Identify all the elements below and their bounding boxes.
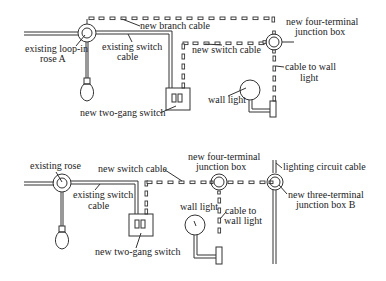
label-new-switch-cable: new switch cable [98,163,167,174]
label-wall-light: wall light [208,94,246,105]
label-wall-light-2: wall light [224,215,262,226]
label-existing-rose: existing rose [30,160,81,171]
label-new-two-gang-switch: new two-gang switch [80,107,166,118]
bottom-pendant-bulb-icon [55,192,68,249]
label-junction-box-b: junction box B [295,199,356,210]
bottom-existing-rose-icon [53,174,71,192]
label-new-switch-cable: new switch cable [192,44,261,55]
bottom-wall-light-icon [185,215,222,264]
top-mains-cable [24,32,78,35]
label-cable: cable [88,200,110,211]
label-junction-box: junction box [195,161,246,172]
label-existing-switch-cable: existing switch [73,189,133,200]
bottom-two-gang-switch-icon [129,214,153,236]
label-junction-box: junction box [294,26,345,37]
label-cable: cable [117,51,139,62]
label-cable-to-wall: cable to wall [285,61,336,72]
bottom-cable-to-wall-light [218,198,221,233]
top-labels: existing loop-in rose A existing switch … [25,16,358,118]
bottom-diagram: existing rose existing switch cable new … [24,151,366,264]
top-two-gang-switch-icon [166,88,190,110]
top-rose-a-icon [78,24,96,42]
top-diagram: existing loop-in rose A existing switch … [24,16,358,118]
bottom-link-cable [228,181,273,184]
top-cable-to-wall-light [273,56,276,101]
label-rose-a: rose A [40,53,67,64]
bottom-labels: existing rose existing switch cable new … [30,151,366,257]
wiring-diagram: existing loop-in rose A existing switch … [0,0,386,281]
label-new-two-gang-switch: new two-gang switch [95,246,181,257]
label-lighting-circuit-cable: lighting circuit cable [283,161,366,172]
label-wall-light: wall light [180,201,218,212]
bottom-mains-cable [24,182,54,185]
label-light: light [300,72,319,83]
label-new-branch-cable: new branch cable [140,20,211,31]
top-junction-box-icon [263,31,282,53]
bottom-three-terminal-box-icon [267,160,283,264]
